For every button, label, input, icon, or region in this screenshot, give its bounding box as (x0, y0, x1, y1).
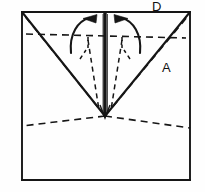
origami-fold-diagram: D A (0, 0, 205, 192)
vertex-label-a: A (162, 61, 171, 74)
vertex-label-d: D (152, 0, 162, 13)
diagram-canvas (0, 0, 205, 192)
